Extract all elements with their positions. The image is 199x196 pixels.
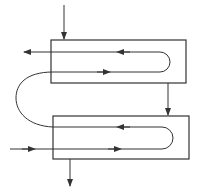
upper-u-tube — [53, 52, 170, 72]
heat-exchanger-diagram — [0, 0, 199, 196]
tube-crossover-curve — [16, 72, 53, 127]
upper-exchanger-shell — [51, 40, 186, 83]
lower-u-tube — [10, 127, 173, 149]
lower-exchanger-shell — [53, 116, 189, 159]
